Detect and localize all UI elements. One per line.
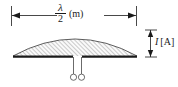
arrow-up-icon xyxy=(148,30,153,37)
arrow-left-icon xyxy=(12,13,20,19)
current-symbol-label: I xyxy=(155,36,158,47)
antenna-diagram: λ 2 (m) I[A] xyxy=(0,0,178,87)
fraction-numerator: λ xyxy=(56,2,65,12)
diagram-canvas xyxy=(0,0,178,87)
feed-terminal-left-icon xyxy=(70,74,76,80)
current-unit-label: [A] xyxy=(160,36,174,47)
arrow-down-icon xyxy=(148,50,153,57)
length-dimension-label: λ 2 (m) xyxy=(55,2,83,24)
current-dimension-label: I[A] xyxy=(155,37,174,47)
arrow-right-icon xyxy=(128,13,136,19)
feed-terminals xyxy=(70,57,84,80)
lambda-over-two-fraction: λ 2 xyxy=(55,2,66,24)
length-unit-label: (m) xyxy=(69,9,83,19)
current-distribution-envelope xyxy=(13,39,137,56)
fraction-denominator: 2 xyxy=(56,14,65,24)
feed-terminal-right-icon xyxy=(78,74,84,80)
